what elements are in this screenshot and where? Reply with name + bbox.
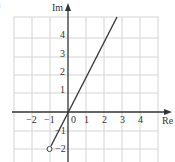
x-tick-labels: −2 −1 0 1 2 3 4 (26, 114, 143, 125)
y-tick-label: 3 (60, 48, 65, 59)
open-circle-start-point (47, 147, 52, 152)
x-tick-label: −1 (44, 114, 55, 125)
y-tick-label: 2 (60, 66, 65, 77)
y-tick-label: 4 (60, 29, 65, 40)
argand-diagram: ) Im Re −2 −1 0 1 2 3 4 4 3 2 (0, 0, 175, 162)
imaginary-axis-arrow-icon (65, 3, 71, 11)
x-tick-label: 4 (138, 114, 143, 125)
axes (12, 8, 168, 162)
y-axis-label: Im (52, 2, 63, 13)
x-tick-label: 1 (84, 114, 89, 125)
x-tick-label: 0 (71, 114, 76, 125)
x-tick-label: −2 (26, 114, 37, 125)
y-tick-label: 1 (60, 84, 65, 95)
cropped-label-fragment: ) (0, 0, 1, 12)
x-tick-label: 2 (102, 114, 107, 125)
grid (14, 17, 158, 162)
y-tick-label: −2 (55, 143, 66, 154)
x-tick-label: 3 (120, 114, 125, 125)
x-axis-label: Re (162, 115, 174, 126)
